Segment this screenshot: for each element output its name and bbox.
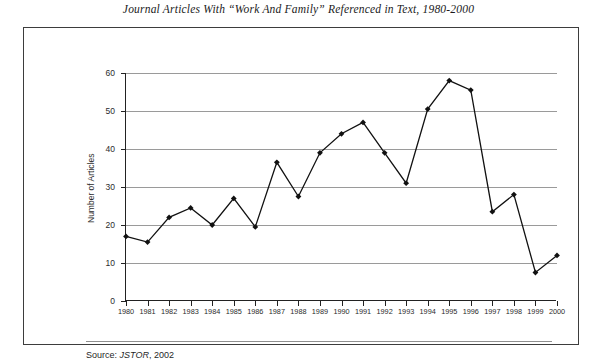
y-tick-label: 10 [95,259,115,268]
chart-title: Journal Articles With “Work And Family” … [0,3,597,15]
source-year: , 2002 [149,350,174,360]
data-point-marker [123,234,129,240]
x-tick-mark [126,301,127,306]
source-database: JSTOR [120,350,149,360]
x-tick-mark [320,301,321,306]
x-tick-mark [342,301,343,306]
x-tick-mark [514,301,515,306]
x-tick-mark [277,301,278,306]
x-tick-mark [298,301,299,306]
x-tick-mark [492,301,493,306]
x-tick-mark [191,301,192,306]
x-tick-mark [234,301,235,306]
x-tick-mark [406,301,407,306]
x-tick-mark [449,301,450,306]
x-tick-mark [212,301,213,306]
series-polyline [126,81,557,273]
x-tick-label: 2000 [542,308,572,315]
x-tick-mark [471,301,472,306]
source-divider [86,341,552,342]
x-tick-mark [428,301,429,306]
x-tick-mark [385,301,386,306]
x-tick-mark [148,301,149,306]
y-tick-label: 20 [95,221,115,230]
x-tick-mark [557,301,558,306]
plot-area: 0102030405060 19801981198219831984198519… [125,73,556,301]
y-tick-label: 40 [95,145,115,154]
chart-panel: Number of Articles 0102030405060 1980198… [23,27,579,345]
data-series-line [126,73,557,301]
data-point-marker [468,87,474,93]
x-tick-mark [535,301,536,306]
source-label: Source: [86,350,117,360]
source-note: Source: JSTOR, 2002 [86,350,174,360]
y-tick-label: 50 [95,107,115,116]
x-tick-mark [363,301,364,306]
x-tick-mark [255,301,256,306]
y-tick-label: 0 [95,297,115,306]
x-tick-mark [169,301,170,306]
y-tick-label: 30 [95,183,115,192]
y-tick-label: 60 [95,69,115,78]
